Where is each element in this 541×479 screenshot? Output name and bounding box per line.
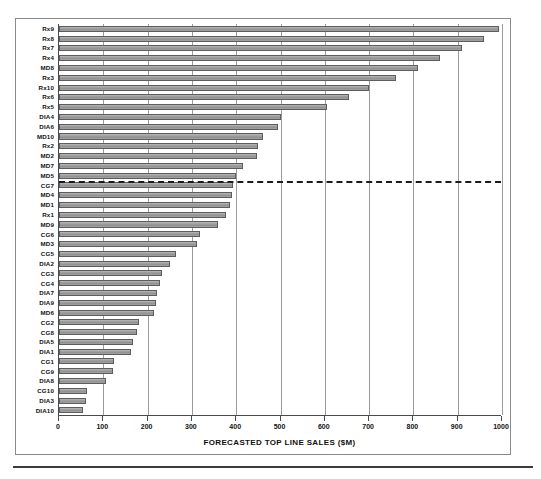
category-label: DIA5 (16, 338, 57, 348)
category-label: CG7 (16, 181, 57, 191)
bar-row (59, 239, 501, 249)
bar-row (59, 141, 501, 151)
x-tick (102, 416, 103, 421)
category-label: DIA6 (16, 122, 57, 132)
category-label: Rx4 (16, 53, 57, 63)
bar-row (59, 112, 501, 122)
category-axis-labels: Rx9Rx8Rx7Rx4MD8Rx3Rx10Rx6Rx5DIA4DIA6MD10… (16, 24, 57, 416)
category-label: Rx5 (16, 102, 57, 112)
bar-row (59, 269, 501, 279)
category-label: CG10 (16, 386, 57, 396)
x-tick (235, 416, 236, 421)
x-tick (324, 416, 325, 421)
bar-row (59, 83, 501, 93)
bar-row (59, 190, 501, 200)
bar (59, 358, 114, 364)
bar (59, 270, 162, 276)
x-tick (501, 416, 502, 421)
category-label: Rx1 (16, 210, 57, 220)
bar (59, 124, 278, 130)
x-tick (147, 416, 148, 421)
bar (59, 251, 176, 257)
bar (59, 407, 83, 413)
category-label: MD8 (16, 63, 57, 73)
bar-row (59, 200, 501, 210)
category-label: MD3 (16, 240, 57, 250)
bar (59, 85, 369, 91)
bar-row (59, 298, 501, 308)
bar-row (59, 122, 501, 132)
bar (59, 310, 154, 316)
bar-row (59, 405, 501, 415)
bar (59, 329, 137, 335)
x-tick-label: 400 (229, 423, 241, 430)
category-label: CG4 (16, 279, 57, 289)
bar (59, 202, 230, 208)
bar-row (59, 337, 501, 347)
x-tick (368, 416, 369, 421)
x-tick-label: 700 (362, 423, 374, 430)
category-label: MD6 (16, 308, 57, 318)
bar (59, 26, 499, 32)
bar-row (59, 210, 501, 220)
bar (59, 45, 462, 51)
category-label: DIA4 (16, 112, 57, 122)
bar (59, 182, 233, 188)
bar (59, 114, 281, 120)
bar-row (59, 317, 501, 327)
plot-wrapper: Rx9Rx8Rx7Rx4MD8Rx3Rx10Rx6Rx5DIA4DIA6MD10… (16, 19, 512, 456)
bar-row (59, 308, 501, 318)
figure-frame: Rx9Rx8Rx7Rx4MD8Rx3Rx10Rx6Rx5DIA4DIA6MD10… (15, 18, 511, 455)
bar-row (59, 63, 501, 73)
bar-row (59, 249, 501, 259)
bar-row (59, 44, 501, 54)
category-label: CG8 (16, 328, 57, 338)
bar (59, 173, 236, 179)
x-tick (412, 416, 413, 421)
category-label: Rx8 (16, 34, 57, 44)
category-label: DIA3 (16, 396, 57, 406)
bar (59, 349, 131, 355)
category-label: CG3 (16, 269, 57, 279)
x-tick-label: 200 (141, 423, 153, 430)
category-label: MD5 (16, 171, 57, 181)
category-label: DIA10 (16, 406, 57, 416)
bar (59, 388, 87, 394)
category-label: Rx10 (16, 83, 57, 93)
bar (59, 65, 418, 71)
x-tick-label: 1000 (493, 423, 509, 430)
bar-row (59, 327, 501, 337)
x-tick-label: 300 (185, 423, 197, 430)
category-label: CG2 (16, 318, 57, 328)
category-label: CG1 (16, 357, 57, 367)
bar-row (59, 151, 501, 161)
bar (59, 221, 218, 227)
category-label: CG5 (16, 249, 57, 259)
bar (59, 368, 113, 374)
category-label: CG9 (16, 367, 57, 377)
gridline (502, 24, 503, 415)
bar-row (59, 278, 501, 288)
x-tick (58, 416, 59, 421)
x-tick-label: 900 (451, 423, 463, 430)
x-tick-label: 0 (56, 423, 60, 430)
category-label: DIA1 (16, 347, 57, 357)
x-tick (191, 416, 192, 421)
bar (59, 36, 484, 42)
bar-row (59, 73, 501, 83)
x-tick-label: 100 (96, 423, 108, 430)
category-label: DIA2 (16, 259, 57, 269)
bar-row (59, 24, 501, 34)
bar (59, 192, 232, 198)
bar (59, 300, 156, 306)
bar-row (59, 132, 501, 142)
bar-row (59, 53, 501, 63)
bar-row (59, 229, 501, 239)
bar-row (59, 102, 501, 112)
chart-page: Rx9Rx8Rx7Rx4MD8Rx3Rx10Rx6Rx5DIA4DIA6MD10… (0, 0, 541, 479)
category-label: Rx7 (16, 44, 57, 54)
bar (59, 75, 396, 81)
bar (59, 133, 263, 139)
x-tick-label: 500 (274, 423, 286, 430)
category-label: MD4 (16, 191, 57, 201)
